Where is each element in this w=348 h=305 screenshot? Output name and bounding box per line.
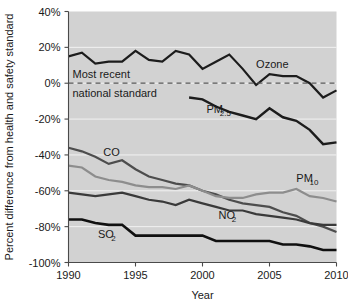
- x-tick-label: 1995: [123, 269, 147, 281]
- series-label-ozone: Ozone: [256, 58, 288, 70]
- y-axis-tick-labels: 40%20%0%-20%-40%-60%-80%-100%: [29, 6, 61, 269]
- y-tick-label: -100%: [29, 257, 61, 269]
- y-axis-title: Percent difference from health and safet…: [3, 14, 15, 261]
- x-axis-tick-labels: 19901995200020052010: [56, 269, 348, 281]
- x-tick-label: 2000: [190, 269, 214, 281]
- series-label-subscript: 2: [111, 234, 116, 243]
- series-label-subscript: 2.5: [220, 109, 232, 118]
- chart-container: 40%20%0%-20%-40%-60%-80%-100% 1990199520…: [0, 0, 348, 305]
- series-label-text: Ozone: [256, 58, 288, 70]
- x-axis-title: Year: [191, 289, 214, 301]
- y-tick-label: 0%: [45, 77, 61, 89]
- y-tick-label: 20%: [38, 41, 60, 53]
- air-quality-trend-chart: 40%20%0%-20%-40%-60%-80%-100% 1990199520…: [0, 0, 348, 305]
- y-tick-label: -20%: [35, 113, 61, 125]
- series-label-text: CO: [103, 146, 120, 158]
- y-tick-label: -80%: [35, 221, 61, 233]
- series-label-subscript: 10: [310, 178, 319, 187]
- standard-annotation-line2: national standard: [73, 87, 157, 99]
- series-label-subscript: 2: [232, 215, 237, 224]
- x-tick-label: 1990: [56, 269, 80, 281]
- series-label-co: CO: [103, 146, 120, 158]
- standard-annotation-line1: Most recent: [73, 68, 130, 80]
- y-tick-label: 40%: [38, 6, 60, 18]
- x-tick-label: 2005: [257, 269, 281, 281]
- y-tick-label: -60%: [35, 185, 61, 197]
- x-tick-label: 2010: [324, 269, 348, 281]
- y-tick-label: -40%: [35, 149, 61, 161]
